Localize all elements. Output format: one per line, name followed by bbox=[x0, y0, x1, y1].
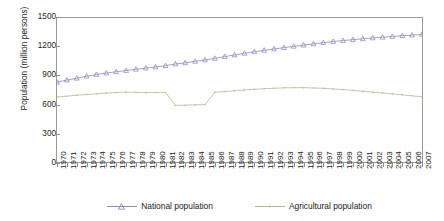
x-tick-mark bbox=[412, 163, 413, 167]
x-tick-mark bbox=[146, 163, 147, 167]
chart-legend: National population Agricultural populat… bbox=[56, 198, 423, 214]
y-tick-mark bbox=[56, 163, 60, 164]
x-tick-mark bbox=[363, 163, 364, 167]
legend-label-agricultural: Agricultural population bbox=[289, 202, 372, 211]
x-tick-mark bbox=[284, 163, 285, 167]
x-axis: 1970197119721973197419751976197719781979… bbox=[0, 0, 444, 221]
legend-swatch-agricultural bbox=[255, 202, 285, 211]
x-tick-mark bbox=[77, 163, 78, 167]
x-tick-mark bbox=[195, 163, 196, 167]
legend-item-national: National population bbox=[107, 202, 213, 211]
y-tick-mark bbox=[56, 17, 60, 18]
x-tick-mark bbox=[225, 163, 226, 167]
x-tick-mark bbox=[304, 163, 305, 167]
x-tick-mark bbox=[136, 163, 137, 167]
legend-item-agricultural: Agricultural population bbox=[255, 202, 372, 211]
y-tick-mark bbox=[56, 46, 60, 47]
x-tick-mark bbox=[422, 163, 423, 167]
x-tick-mark bbox=[343, 163, 344, 167]
triangle-icon bbox=[118, 203, 125, 210]
x-tick-mark bbox=[353, 163, 354, 167]
x-tick-mark bbox=[67, 163, 68, 167]
y-tick-mark bbox=[56, 134, 60, 135]
y-tick-mark bbox=[56, 105, 60, 106]
dot-icon bbox=[266, 203, 273, 210]
y-tick-mark bbox=[56, 75, 60, 76]
x-tick-mark bbox=[205, 163, 206, 167]
x-tick-mark bbox=[264, 163, 265, 167]
x-tick-mark bbox=[274, 163, 275, 167]
x-tick-mark bbox=[294, 163, 295, 167]
x-tick-mark bbox=[383, 163, 384, 167]
x-tick-mark bbox=[156, 163, 157, 167]
legend-swatch-national bbox=[107, 202, 137, 211]
population-line-chart: Population (million persons) 03006009001… bbox=[0, 0, 444, 221]
x-tick-mark bbox=[126, 163, 127, 167]
x-tick-mark bbox=[373, 163, 374, 167]
legend-label-national: National population bbox=[141, 202, 213, 211]
x-tick-mark bbox=[235, 163, 236, 167]
x-tick-mark bbox=[87, 163, 88, 167]
x-tick-mark bbox=[166, 163, 167, 167]
x-tick-mark bbox=[215, 163, 216, 167]
x-tick-label: 2007 bbox=[425, 151, 433, 169]
